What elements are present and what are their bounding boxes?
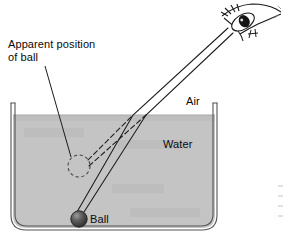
- eyeball-group: [229, 9, 258, 34]
- ball-sphere: [71, 211, 87, 227]
- ball-label: Ball: [90, 213, 109, 226]
- water-surface-shade: [13, 115, 215, 121]
- scan-artifact: [24, 128, 84, 137]
- lower-lash-group: [248, 29, 258, 38]
- edge-tick: [278, 6, 281, 9]
- lower-lash: [248, 33, 258, 34]
- ball-graphic: [71, 211, 87, 227]
- water-label: Water: [163, 138, 192, 151]
- apparent-position-label: Apparent position of ball: [8, 38, 95, 64]
- figure-canvas: Apparent position of ball Air Water Ball: [0, 0, 285, 238]
- scan-artifact: [112, 184, 164, 193]
- margin-tick-group: [278, 186, 283, 216]
- scan-artifact: [130, 208, 200, 217]
- refraction-diagram: [0, 0, 285, 238]
- air-label: Air: [186, 95, 200, 108]
